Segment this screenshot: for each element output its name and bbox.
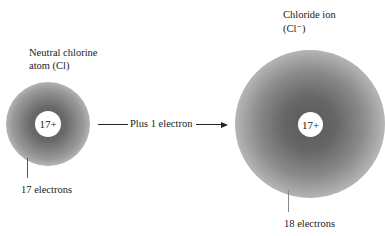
neutral-atom-title-line1: Neutral chlorine <box>29 47 98 59</box>
neutral-atom-nucleus: 17+ <box>35 111 61 137</box>
arrow-label: Plus 1 electron <box>130 118 192 130</box>
arrow-line-right <box>196 124 222 125</box>
neutral-atom-title-line2: atom (Cl) <box>29 60 70 72</box>
chloride-ion-title-line2: (Cl⁻) <box>283 23 305 35</box>
chloride-ion-nucleus: 17+ <box>298 112 323 137</box>
arrowhead-icon <box>221 122 228 128</box>
neutral-atom-leader-line <box>27 158 28 178</box>
chloride-ion-title-line1: Chloride ion <box>283 9 336 21</box>
chloride-ion-leader-line <box>288 190 289 212</box>
arrow-line-left <box>98 124 128 125</box>
neutral-atom-electron-count: 17 electrons <box>21 184 72 196</box>
neutral-atom-nucleus-charge: 17+ <box>39 118 56 130</box>
chloride-ion-electron-count: 18 electrons <box>284 218 335 230</box>
chloride-ion-nucleus-charge: 17+ <box>302 119 319 131</box>
